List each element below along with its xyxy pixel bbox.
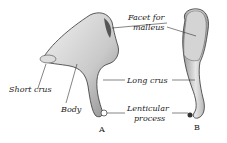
label-facet-for-malleus-line1: Facet for — [128, 13, 164, 22]
incus-illustration — [0, 0, 227, 143]
label-lenticular-process-line1: Lenticular — [127, 104, 169, 113]
view-b-caption: B — [194, 123, 200, 132]
view-b-bone — [183, 9, 209, 118]
label-lenticular-process-line2: process — [134, 114, 165, 123]
view-a-bone — [40, 13, 119, 117]
label-facet-for-malleus-line2: malleus — [133, 23, 164, 32]
view-a-caption: A — [99, 125, 105, 134]
label-long-crus: Long crus — [127, 76, 168, 85]
label-body: Body — [61, 105, 81, 114]
label-short-crus: Short crus — [9, 85, 52, 94]
incus-diagram: Facet for malleus Short crus Body Long c… — [0, 0, 227, 143]
